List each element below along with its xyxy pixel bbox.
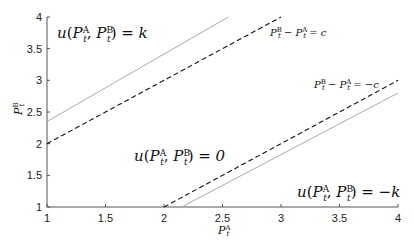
y-tick-label: 2 [36,138,42,150]
x-tick-label: 1 [44,212,50,224]
annotation-diff-equals-c: PBt − PAt = c [269,26,327,40]
axes [47,17,398,207]
y-tick-label: 1.5 [27,169,42,181]
plot-lines [47,17,398,207]
y-tick-label: 4 [36,11,42,23]
y-tick-label: 2.5 [27,106,42,118]
y-axis-label: PBt [12,102,26,116]
x-tick-label: 1.5 [98,212,113,224]
x-tick-label: 2 [161,212,167,224]
y-tick-label: 3.5 [27,43,42,55]
x-axis-label: PAt [217,224,231,238]
x-tick-label: 4 [395,212,401,224]
annotation-u-equals-k: u(PAt, PBt) = k [57,24,148,44]
x-tick-label: 3.5 [332,212,347,224]
annotation-u-equals-minus-k: u(PAt, PBt) = −k [297,183,400,203]
x-tick-label: 3 [278,212,284,224]
y-tick-label: 3 [36,74,42,86]
annotation-diff-equals-minus-c: PBt − PAt = −c [313,78,379,92]
chart: 11.522.533.5411.522.533.54 u(PAt, PBt) =… [0,0,414,250]
y-tick-label: 1 [36,201,42,213]
annotation-u-equals-0: u(PAt, PBt) = 0 [134,147,226,167]
x-tick-label: 2.5 [215,212,230,224]
